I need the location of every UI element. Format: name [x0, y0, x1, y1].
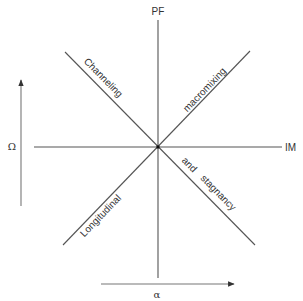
- channeling-label: Channeling: [82, 56, 125, 100]
- stagnancy-label: stagnancy: [199, 172, 239, 212]
- macromixing-label: macromixing: [181, 65, 228, 113]
- alpha-label: α: [154, 289, 161, 300]
- center-point: [157, 146, 160, 149]
- longitudinal-label: Longitudinal: [78, 192, 123, 238]
- pf-label: PF: [152, 6, 165, 17]
- mixing-regime-diagram: PF IM Channeling macromixing Longitudina…: [0, 0, 303, 301]
- im-label: IM: [285, 142, 296, 153]
- omega-label: Ω: [8, 141, 16, 152]
